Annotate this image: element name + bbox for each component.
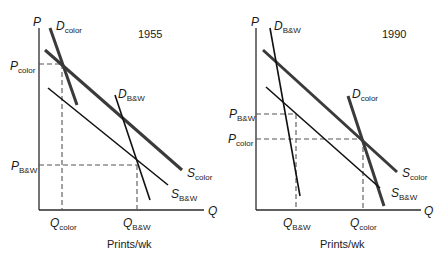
axis-q-label: Q [208, 204, 217, 218]
supply-demand-diagram: P Q 1955 Dcolor DB&W Scolor SB&W Pcolor … [0, 0, 440, 254]
q-color-label: Qcolor [350, 216, 377, 232]
q-bw-label: QB&W [123, 216, 151, 232]
s-color-label: Scolor [187, 166, 213, 182]
axis-q-label: Q [424, 204, 433, 218]
p-color-label: Pcolor [10, 59, 36, 75]
d-bw-label: DB&W [274, 19, 301, 35]
x-axis-title: Prints/wk [320, 238, 365, 250]
p-bw-label: PB&W [11, 159, 38, 175]
d-bw-label: DB&W [118, 87, 145, 103]
d-color-curve [348, 96, 384, 206]
axis-p-label: P [33, 15, 41, 29]
panel-1955: P Q 1955 Dcolor DB&W Scolor SB&W Pcolor … [10, 15, 217, 250]
d-bw-curve [270, 28, 300, 196]
p-color-label: Pcolor [228, 132, 254, 148]
year-label: 1990 [382, 28, 406, 40]
axis-p-label: P [251, 15, 259, 29]
d-bw-curve [115, 95, 150, 200]
p-bw-label: PB&W [229, 107, 256, 123]
d-color-label: Dcolor [352, 87, 378, 103]
panel-1990: P Q 1990 DB&W Dcolor Scolor SB&W PB&W Pc… [228, 15, 433, 250]
s-color-curve [263, 50, 397, 172]
d-color-label: Dcolor [56, 19, 82, 35]
s-bw-curve [48, 88, 168, 185]
s-bw-label: SB&W [391, 186, 418, 202]
s-color-label: Scolor [402, 166, 428, 182]
q-bw-label: QB&W [283, 216, 311, 232]
x-axis-title: Prints/wk [107, 238, 152, 250]
year-label: 1955 [138, 28, 162, 40]
q-color-label: Qcolor [50, 216, 77, 232]
s-bw-label: SB&W [171, 187, 198, 203]
